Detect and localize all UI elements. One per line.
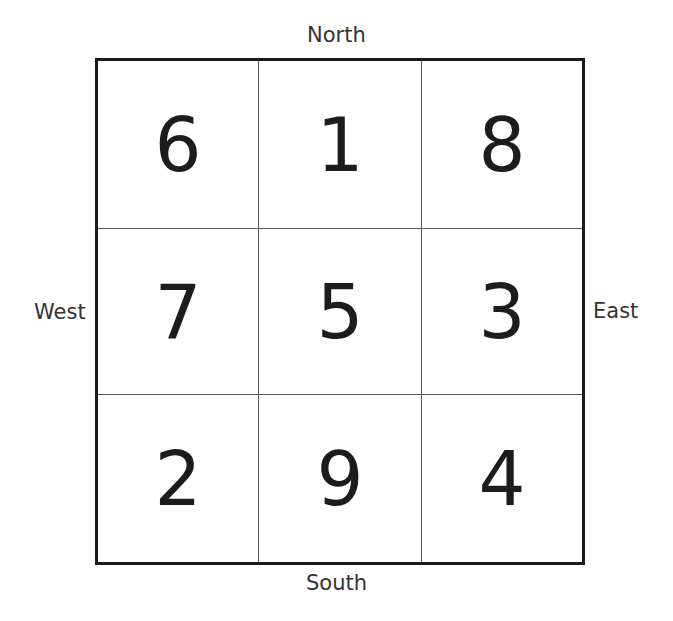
cell-north: 1 bbox=[259, 61, 422, 229]
cell-south-west: 2 bbox=[98, 395, 259, 562]
cell-east: 3 bbox=[422, 229, 582, 395]
cell-west: 7 bbox=[98, 229, 259, 395]
magic-square-grid: 6 1 8 7 5 3 2 9 4 bbox=[95, 58, 585, 565]
label-north: North bbox=[307, 25, 366, 46]
cell-center: 5 bbox=[259, 229, 422, 395]
label-south: South bbox=[306, 573, 367, 594]
label-west: West bbox=[34, 302, 86, 323]
cell-north-west: 6 bbox=[98, 61, 259, 229]
cell-north-east: 8 bbox=[422, 61, 582, 229]
cell-south: 9 bbox=[259, 395, 422, 562]
cell-south-east: 4 bbox=[422, 395, 582, 562]
label-east: East bbox=[593, 301, 638, 322]
